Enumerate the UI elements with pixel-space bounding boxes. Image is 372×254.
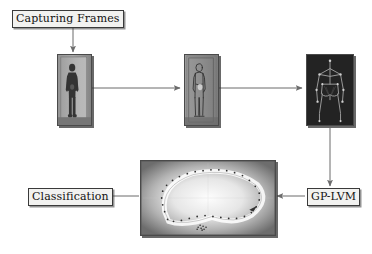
diagram-canvas: Capturing Frames — [0, 0, 372, 254]
latent-space-image — [141, 161, 275, 235]
panel-latent-space-plot[interactable] — [140, 160, 276, 236]
edge-frame-image — [185, 55, 218, 125]
label-capturing-frames[interactable]: Capturing Frames — [12, 10, 124, 28]
raw-frame-image — [58, 55, 91, 125]
panel-raw-frame[interactable] — [57, 54, 92, 126]
label-gp-lvm[interactable]: GP-LVM — [307, 188, 360, 206]
panel-edge-frame[interactable] — [184, 54, 219, 126]
label-classification[interactable]: Classification — [28, 188, 113, 206]
skeleton-frame-image — [307, 55, 353, 125]
panel-skeleton-frame[interactable] — [306, 54, 354, 126]
